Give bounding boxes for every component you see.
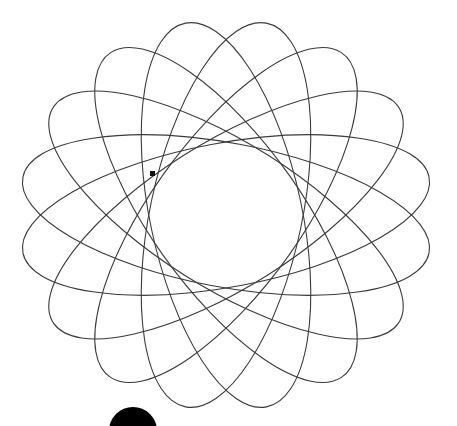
ellipse-1 — [8, 106, 444, 323]
ellipse-7 — [12, 47, 441, 384]
ellipse-3 — [48, 12, 404, 417]
ellipse-8 — [8, 106, 444, 323]
canvas — [0, 0, 457, 426]
rosette-group — [8, 9, 444, 421]
ellipse-5 — [111, 9, 341, 421]
ellipse-2 — [12, 47, 441, 384]
ellipse-rosette-diagram — [0, 0, 457, 426]
ellipse-4 — [111, 9, 341, 421]
square-marker[interactable] — [150, 171, 155, 176]
ellipse-6 — [48, 12, 404, 417]
